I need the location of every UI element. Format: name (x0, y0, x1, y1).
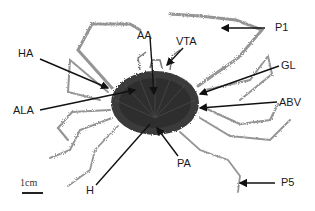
label-ALA: ALA (13, 105, 34, 116)
label-GL: GL (281, 60, 296, 71)
arrow-H (96, 124, 150, 185)
label-PA: PA (177, 158, 191, 169)
label-VTA: VTA (176, 36, 197, 47)
arrow-VTA (167, 48, 183, 65)
label-HA: HA (18, 48, 33, 59)
scale-bar-label: 1cm (20, 178, 37, 188)
specimen-illustration (0, 0, 315, 211)
label-P1: P1 (275, 22, 288, 33)
label-H: H (86, 185, 94, 196)
arrow-ABV (200, 102, 277, 108)
left-leg-4 (68, 126, 118, 186)
label-P5: P5 (281, 177, 294, 188)
right-cheliped (170, 14, 262, 86)
left-leg-2 (58, 110, 110, 140)
left-leg-3 (50, 118, 112, 158)
label-ABV: ABV (279, 97, 301, 108)
label-AA: AA (137, 30, 152, 41)
arrow-GL (200, 66, 279, 94)
antennae (138, 50, 180, 70)
right-leg-3 (200, 118, 290, 140)
figure-canvas: P1 HA AA VTA GL ALA ABV H PA P5 1cm (0, 0, 315, 211)
